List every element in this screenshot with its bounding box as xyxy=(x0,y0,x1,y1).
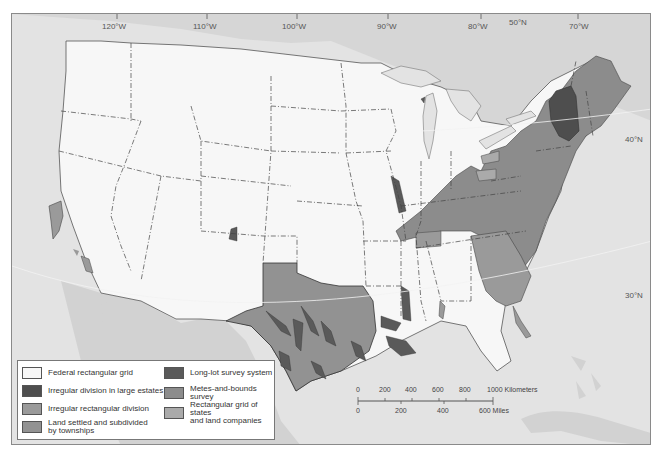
longitude-label-70w: 70°W xyxy=(569,22,589,31)
swatch-states-land-companies xyxy=(164,407,184,419)
latitude-label-40n: 40°N xyxy=(625,135,643,144)
states-land-companies-ne xyxy=(476,169,496,181)
scale-km-200: 200 xyxy=(379,386,391,393)
scale-mi-200: 200 xyxy=(395,407,407,414)
scale-km-1000: 1000 Kilometers xyxy=(487,386,538,393)
longitude-label-100w: 100°W xyxy=(282,22,306,31)
map-legend: Federal rectangular grid Irregular divis… xyxy=(17,360,275,440)
scale-km-0: 0 xyxy=(356,386,360,393)
legend-label: Rectangular grid of states xyxy=(190,401,274,417)
latitude-label-30n: 30°N xyxy=(625,291,643,300)
swatch-townships xyxy=(22,421,42,433)
scale-km-400: 400 xyxy=(405,386,417,393)
legend-label: Metes-and-bounds survey xyxy=(190,385,274,401)
swatch-metes-and-bounds xyxy=(164,387,184,399)
legend-item-long-lot: Long-lot survey system xyxy=(164,367,272,379)
scale-mi-600: 600 Miles xyxy=(479,407,509,414)
irregular-rectangular-tennessee-strip xyxy=(416,231,441,248)
scale-mi-0: 0 xyxy=(356,407,360,414)
swatch-large-estates xyxy=(22,385,42,397)
legend-item-townships: Land settled and subdivided by townships xyxy=(22,419,148,435)
longitude-label-80w: 80°W xyxy=(468,22,488,31)
longitude-label-110w: 110°W xyxy=(193,22,217,31)
scale-km-800: 800 xyxy=(459,386,471,393)
legend-label: and land companies xyxy=(190,417,274,425)
legend-label: Long-lot survey system xyxy=(190,369,272,377)
longitude-label-120w: 120°W xyxy=(102,22,126,31)
swatch-federal-grid xyxy=(22,367,42,379)
legend-item-states-land-companies: Rectangular grid of states and land comp… xyxy=(164,401,274,425)
scale-bar: 0 200 400 600 800 1000 Kilometers 0 200 … xyxy=(350,383,510,423)
latitude-label-50n: 50°N xyxy=(509,18,527,27)
legend-label: by townships xyxy=(48,427,148,435)
scale-km-600: 600 xyxy=(432,386,444,393)
longitude-label-90w: 90°W xyxy=(377,22,397,31)
swatch-irregular-rectangular xyxy=(22,403,42,415)
legend-label: Federal rectangular grid xyxy=(48,369,133,377)
legend-label: Irregular division in large estates xyxy=(48,387,163,395)
legend-item-metes-and-bounds: Metes-and-bounds survey xyxy=(164,385,274,401)
legend-item-large-estates: Irregular division in large estates xyxy=(22,385,163,397)
swatch-long-lot xyxy=(164,367,184,379)
legend-item-irregular-rectangular: Irregular rectangular division xyxy=(22,403,149,415)
scale-mi-400: 400 xyxy=(437,407,449,414)
legend-label: Irregular rectangular division xyxy=(48,405,149,413)
legend-item-federal-grid: Federal rectangular grid xyxy=(22,367,133,379)
